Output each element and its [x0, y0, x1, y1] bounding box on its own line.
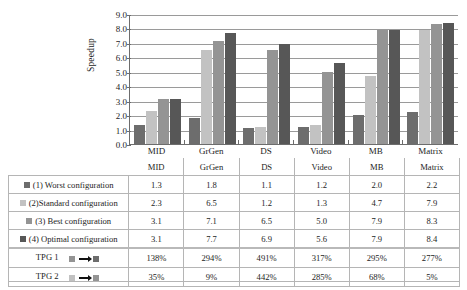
bar [189, 118, 200, 144]
table-cell: 1.2 [294, 176, 349, 194]
bar [255, 127, 266, 144]
table-cell: 8.3 [404, 212, 459, 230]
bar [310, 125, 321, 144]
table-cell: 5.0 [294, 212, 349, 230]
arrow-head [88, 256, 92, 262]
table-row: (2)Standard configuration2.36.51.21.34.7… [9, 194, 460, 212]
bar [267, 50, 278, 144]
table-cell: 1.8 [184, 176, 239, 194]
table-cell: 6.5 [239, 212, 294, 230]
bar [298, 127, 309, 144]
table-cell: 3.1 [129, 212, 184, 230]
table-cell: 8.4 [404, 230, 459, 249]
tpg-cell: 277% [404, 248, 459, 268]
table-header-cell: DS [239, 158, 294, 176]
legend-row-label: (1) Worst configuration [9, 176, 129, 194]
data-table: MIDGrGenDSVideoMBMatrix(1) Worst configu… [8, 158, 460, 287]
bar [377, 30, 388, 144]
legend-label-text: (4) Optimal configuration [29, 234, 118, 244]
table-header-cell: MB [349, 158, 404, 176]
y-tick-label: 4.0 [101, 83, 127, 92]
table-cell: 3.1 [129, 230, 184, 249]
x-axis-labels: MIDGrGenDSVideoMBMatrix [129, 145, 458, 158]
tpg-cell: 5% [404, 268, 459, 287]
table-cell: 7.7 [184, 230, 239, 249]
tpg-to-swatch-icon [93, 275, 99, 281]
legend-swatch-icon [20, 200, 26, 206]
bar [146, 111, 157, 144]
arrow-head [88, 275, 92, 281]
tpg-cell: 35% [129, 268, 184, 287]
table-cell: 7.1 [184, 212, 239, 230]
bar [170, 99, 181, 144]
bar [243, 128, 254, 144]
chart-page: Speedup 0.01.02.03.04.05.06.07.08.09.0 M… [0, 0, 467, 290]
tpg-row: TPG 1138%294%491%317%295%277% [9, 248, 460, 268]
table-cell: 6.5 [184, 194, 239, 212]
tpg-row-label: TPG 1 [9, 248, 129, 268]
bar [322, 72, 333, 144]
table-row: (1) Worst configuration1.31.81.11.22.02.… [9, 176, 460, 194]
bar-group [130, 15, 185, 144]
bar [334, 63, 345, 144]
x-tick-label: DS [239, 145, 294, 158]
bar [443, 23, 454, 144]
legend-label-text: (3) Best configuration [35, 216, 111, 226]
legend-swatch-icon [20, 236, 26, 242]
table-cell: 7.9 [349, 212, 404, 230]
tpg-cell: 294% [184, 248, 239, 268]
table-cell: 2.0 [349, 176, 404, 194]
table-header-cell: Matrix [404, 158, 459, 176]
y-tick-label: 5.0 [101, 68, 127, 77]
bar-group [185, 15, 240, 144]
x-tick-label: Matrix [403, 145, 458, 158]
bar-group [349, 15, 404, 144]
x-tick-label: MB [348, 145, 403, 158]
table-cell: 1.1 [239, 176, 294, 194]
y-tick-label: 2.0 [101, 112, 127, 121]
table-header-cell: GrGen [184, 158, 239, 176]
tpg-from-swatch-icon [69, 256, 75, 262]
table-header-cell: Video [294, 158, 349, 176]
bar [201, 50, 212, 144]
tpg-label-text: TPG 1 [36, 252, 59, 262]
bar-group [403, 15, 458, 144]
y-tick-label: 6.0 [101, 54, 127, 63]
table-row: (3) Best configuration3.17.16.55.07.98.3 [9, 212, 460, 230]
bar [158, 99, 169, 144]
legend-row-label: (3) Best configuration [9, 212, 129, 230]
table-cell: 2.3 [129, 194, 184, 212]
y-tick-label: 8.0 [101, 25, 127, 34]
legend-row-label: (2)Standard configuration [9, 194, 129, 212]
arrow-right-icon [79, 255, 92, 262]
tpg-row: TPG 235%9%442%285%68%5% [9, 268, 460, 287]
tpg-cell: 442% [239, 268, 294, 287]
legend-row-label: (4) Optimal configuration [9, 230, 129, 249]
bar [225, 33, 236, 144]
table-cell: 1.2 [239, 194, 294, 212]
table-cell: 1.3 [129, 176, 184, 194]
tpg-to-swatch-icon [93, 256, 99, 262]
y-tick-label: 0.0 [101, 141, 127, 150]
arrow-shaft [79, 258, 88, 260]
tpg-cell: 491% [239, 248, 294, 268]
table-cell: 6.9 [239, 230, 294, 249]
y-tick-label: 9.0 [101, 11, 127, 20]
table-header-blank [9, 158, 129, 176]
y-axis-ticks: 0.01.02.03.04.05.06.07.08.09.0 [101, 0, 127, 158]
tpg-cell: 68% [349, 268, 404, 287]
tpg-cell: 138% [129, 248, 184, 268]
x-tick-label: Video [293, 145, 348, 158]
bar-groups [130, 15, 458, 144]
y-tick-label: 3.0 [101, 97, 127, 106]
tpg-cell: 295% [349, 248, 404, 268]
table-bottom-rule [8, 281, 460, 282]
plot-area [129, 15, 458, 145]
legend-swatch-icon [26, 218, 32, 224]
tpg-transition-icon [69, 254, 102, 264]
y-axis-label: Speedup [86, 20, 100, 90]
tpg-cell: 285% [294, 268, 349, 287]
y-tick-label: 1.0 [101, 126, 127, 135]
bar [213, 41, 224, 144]
bar [431, 24, 442, 144]
